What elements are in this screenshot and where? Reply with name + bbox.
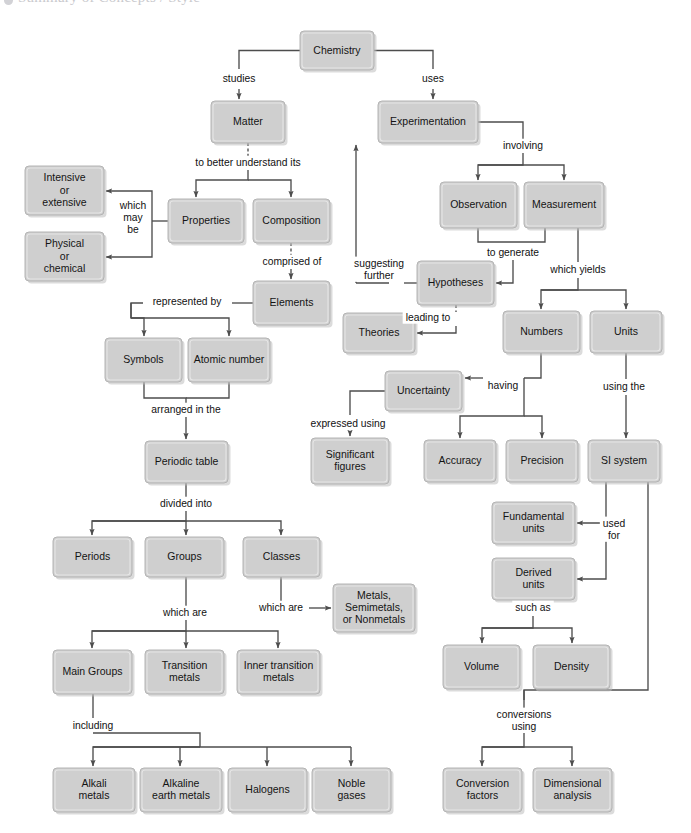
edge-label-representedby: represented by [153, 296, 223, 307]
concept-node-volume[interactable]: Volume [443, 645, 523, 692]
concept-node-atomicnumber[interactable]: Atomic number [188, 338, 273, 385]
concept-node-periodictable[interactable]: Periodic table [145, 441, 231, 486]
concept-node-experimentation[interactable]: Experimentation [378, 101, 481, 146]
node-label: Elements [270, 296, 314, 308]
concept-node-composition[interactable]: Composition [253, 199, 333, 246]
edge-label-uses: uses [422, 73, 444, 84]
concept-node-halogens[interactable]: Halogens [228, 768, 310, 815]
concept-node-units[interactable]: Units [590, 311, 665, 356]
node-label: Atomic number [194, 353, 265, 365]
concept-node-properties[interactable]: Properties [168, 199, 247, 246]
node-label: Accuracy [438, 454, 482, 466]
edge-label-having: having [488, 380, 519, 391]
edge-label-dividedinto: divided into [160, 498, 212, 509]
node-label: Chemistry [313, 43, 361, 55]
concept-node-measurement[interactable]: Measurement [524, 182, 607, 231]
node-label: Alkalimetals [79, 777, 110, 801]
concept-node-metalsetc[interactable]: Metals,Semimetals,or Nonmetals [333, 584, 418, 635]
concept-node-observation[interactable]: Observation [440, 182, 520, 231]
edge-label-suchas: such as [515, 602, 551, 613]
node-label: Numbers [520, 325, 563, 337]
concept-node-chemistry[interactable]: Chemistry [300, 31, 377, 73]
node-label: SI system [601, 454, 647, 466]
concept-node-hypotheses[interactable]: Hypotheses [417, 261, 497, 308]
concept-node-significant[interactable]: Significantfigures [311, 438, 392, 487]
concept-node-fundamental[interactable]: Fundamentalunits [492, 502, 578, 547]
edge-label-whichyields: which yields [549, 264, 606, 275]
node-label: Uncertainty [397, 384, 451, 396]
node-label: Classes [263, 550, 300, 562]
edge-label-including: including [73, 720, 114, 731]
edge-label-tobetter: to better understand its [195, 157, 300, 168]
concept-node-periods[interactable]: Periods [53, 537, 135, 580]
concept-node-intensive[interactable]: Intensiveorextensive [25, 166, 107, 218]
concept-node-uncertainty[interactable]: Uncertainty [385, 371, 465, 414]
edge-label-arrangedin: arranged in the [151, 404, 221, 415]
node-label: Main Groups [62, 665, 122, 677]
node-label: Noblegases [337, 777, 365, 801]
node-label: Measurement [532, 198, 596, 210]
node-label: Composition [262, 214, 321, 226]
concept-node-innertransition[interactable]: Inner transitionmetals [237, 650, 323, 697]
node-label: Volume [464, 660, 499, 672]
node-label: Hypotheses [428, 276, 483, 288]
edge-label-togenerate: to generate [487, 247, 539, 258]
edge-label-comprisedof: comprised of [263, 256, 322, 267]
edge-label-whichare2: which are [258, 602, 303, 613]
node-label: Properties [182, 214, 230, 226]
concept-map-page: Summary of Concepts / Style [0, 0, 691, 833]
edge-label-studies: studies [223, 73, 256, 84]
concept-node-symbols[interactable]: Symbols [105, 338, 185, 385]
concept-node-derived[interactable]: Derivedunits [492, 558, 578, 603]
concept-node-density[interactable]: Density [533, 645, 613, 692]
concept-node-numbers[interactable]: Numbers [503, 311, 583, 356]
concept-node-noble[interactable]: Noblegases [312, 768, 394, 815]
concept-node-sisystem[interactable]: SI system [588, 440, 663, 485]
node-label: Periods [75, 550, 111, 562]
node-label: Periodic table [155, 455, 219, 467]
edge-label-expressed: expressed using [311, 418, 386, 429]
edge-label-involving: involving [503, 140, 543, 151]
edge-label-usingthe: using the [603, 381, 645, 392]
concept-node-classes[interactable]: Classes [243, 537, 323, 580]
concept-node-dimensional[interactable]: Dimensionalanalysis [533, 768, 615, 815]
concept-node-precision[interactable]: Precision [506, 440, 581, 485]
concept-node-alkali[interactable]: Alkalimetals [53, 768, 138, 815]
concept-node-maingroups[interactable]: Main Groups [53, 650, 135, 697]
concept-map-svg: ChemistryMatterExperimentationIntensiveo… [0, 0, 691, 833]
node-label: Matter [233, 115, 263, 127]
edge-label-whichare1: which are [162, 607, 207, 618]
node-label: Symbols [123, 353, 163, 365]
concept-node-transition[interactable]: Transitionmetals [145, 650, 227, 697]
concept-node-matter[interactable]: Matter [211, 101, 288, 146]
node-label: Observation [450, 198, 507, 210]
concept-node-accuracy[interactable]: Accuracy [424, 440, 499, 485]
node-label: Density [554, 660, 590, 672]
node-label: Halogens [245, 783, 289, 795]
concept-node-physical[interactable]: Physicalorchemical [25, 232, 107, 284]
concept-node-conversionf[interactable]: Conversionfactors [443, 768, 525, 815]
edge-label-leadingto: leading to [406, 312, 451, 323]
node-label: Groups [167, 550, 201, 562]
node-label: Experimentation [390, 115, 466, 127]
node-label: Theories [359, 326, 400, 338]
node-label: Units [614, 325, 638, 337]
concept-node-alkaline[interactable]: Alkalineearth metals [140, 768, 225, 815]
concept-node-groups[interactable]: Groups [145, 537, 227, 580]
node-label: Precision [520, 454, 563, 466]
concept-node-elements[interactable]: Elements [253, 281, 333, 328]
